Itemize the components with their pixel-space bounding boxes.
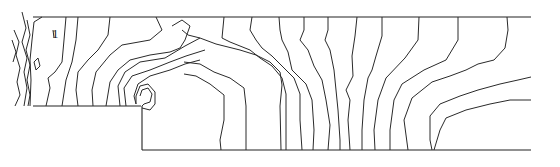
contour-line-31 — [434, 100, 531, 150]
contour-line-19 — [184, 74, 224, 150]
contour-line-25 — [346, 17, 357, 150]
contour-label: 1 — [52, 26, 59, 41]
contour-line-26 — [362, 17, 382, 150]
contour-line-5 — [30, 17, 42, 106]
contour-line-2 — [22, 12, 27, 106]
contour-plot: 1 — [0, 0, 560, 167]
contour-line-27 — [374, 17, 419, 150]
contour-lines — [12, 12, 531, 150]
contour-line-24 — [325, 17, 340, 150]
contour-line-12 — [118, 38, 200, 106]
contour-line-30 — [430, 77, 531, 150]
contour-line-28 — [390, 17, 458, 150]
contour-line-21 — [250, 17, 302, 150]
contour-line-0 — [14, 30, 20, 106]
contour-line-14 — [134, 60, 200, 104]
contour-line-1 — [12, 40, 16, 62]
contour-line-4 — [34, 58, 40, 70]
contour-line-17 — [182, 30, 282, 150]
contour-line-29 — [404, 17, 508, 150]
contour-line-15 — [140, 88, 152, 106]
annotations: 1 — [52, 26, 59, 41]
